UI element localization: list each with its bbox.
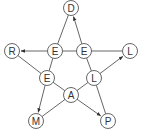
arrow-e3-m (38, 85, 45, 112)
edge-e2-l2 (87, 58, 92, 71)
node-label: E (44, 73, 51, 84)
node-label: E (81, 46, 88, 57)
edge-l2-p (96, 85, 105, 114)
node-r: R (5, 44, 20, 59)
edge-m-a (42, 99, 65, 116)
edge-r-e3 (18, 56, 41, 74)
node-l1: L (123, 44, 138, 59)
arrow-a-p (77, 99, 100, 116)
arrow-l2-l1 (100, 56, 123, 73)
node-e3: E (40, 71, 55, 86)
node-e1: E (48, 44, 63, 59)
pentagram-diagram: DEERLELAMP (0, 0, 141, 133)
node-p: P (101, 114, 116, 129)
node-label: A (68, 90, 75, 101)
edge-e3-a (53, 82, 65, 90)
node-label: L (127, 46, 133, 57)
edge-d-e1 (58, 15, 69, 44)
node-label: P (105, 116, 112, 127)
node-l2: L (87, 71, 102, 86)
node-d: D (64, 1, 79, 16)
node-label: R (8, 46, 15, 57)
node-a: A (64, 88, 79, 103)
node-label: D (67, 3, 74, 14)
edge-e1-e3 (49, 58, 53, 71)
node-e2: E (77, 44, 92, 59)
node-label: E (52, 46, 59, 57)
edge-a-l2 (77, 82, 88, 90)
arrow-e2-d (74, 17, 82, 44)
nodes-layer: DEERLELAMP (5, 1, 138, 129)
node-m: M (29, 114, 44, 129)
node-label: L (91, 73, 97, 84)
node-label: M (32, 116, 40, 127)
